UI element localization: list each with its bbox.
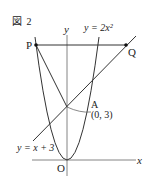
point-a-coords: (0, 3) [91, 110, 113, 120]
figure-canvas [0, 0, 149, 182]
parabola-label: y = 2x² [84, 23, 113, 33]
figure-title: 図 2 [12, 17, 33, 27]
line-label: y = x + 3 [17, 143, 54, 153]
x-axis-label: x [137, 155, 142, 166]
point-q-label: Q [128, 47, 136, 58]
y-axis-label: y [64, 24, 69, 35]
line-y-eq-x-plus-3 [33, 36, 136, 141]
point-p [34, 43, 38, 47]
origin-label: O [57, 163, 65, 174]
point-p-label: P [26, 40, 32, 51]
